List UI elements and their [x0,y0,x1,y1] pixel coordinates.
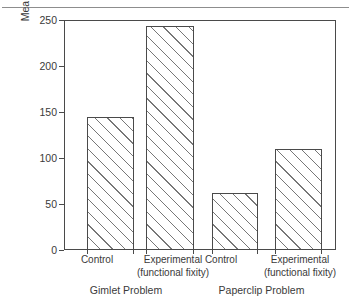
x-label-gimlet-experimental-line2: (functional fixity) [128,267,218,280]
figure: Mean Latency of Problem Solution in Seco… [0,0,351,307]
bar-gimlet-control [87,117,134,250]
y-tick-label-0: 0 [51,245,57,256]
x-label-gimlet-control: Control [62,254,132,267]
y-tick-label-200: 200 [39,61,57,72]
x-label-paperclip-control-line1: Control [186,254,256,267]
bar-gimlet-experimental [146,26,194,250]
x-label-gimlet-control-line1: Control [62,254,132,267]
y-tick-label-100: 100 [39,153,57,164]
bar-paperclip-control [212,193,258,250]
y-tick-label-150: 150 [39,107,57,118]
y-tick-label-250: 250 [39,15,57,26]
y-tick-label-50: 50 [45,199,57,210]
x-label-paperclip-experimental: Experimental (functional fixity) [255,254,345,279]
header-rule [2,7,349,8]
plot-area: 0 50 100 150 200 250 [64,20,336,250]
y-axis-title-line1: Mean Latency of Problem Solution [19,0,32,21]
group-label-gimlet: Gimlet Problem [66,284,186,297]
bar-paperclip-experimental [275,149,322,250]
group-label-paperclip: Paperclip Problem [194,284,329,297]
x-label-paperclip-control: Control [186,254,256,267]
x-label-paperclip-experimental-line2: (functional fixity) [255,267,345,280]
x-label-paperclip-experimental-line1: Experimental [255,254,345,267]
y-axis-title: Mean Latency of Problem Solution in Seco… [14,0,50,56]
